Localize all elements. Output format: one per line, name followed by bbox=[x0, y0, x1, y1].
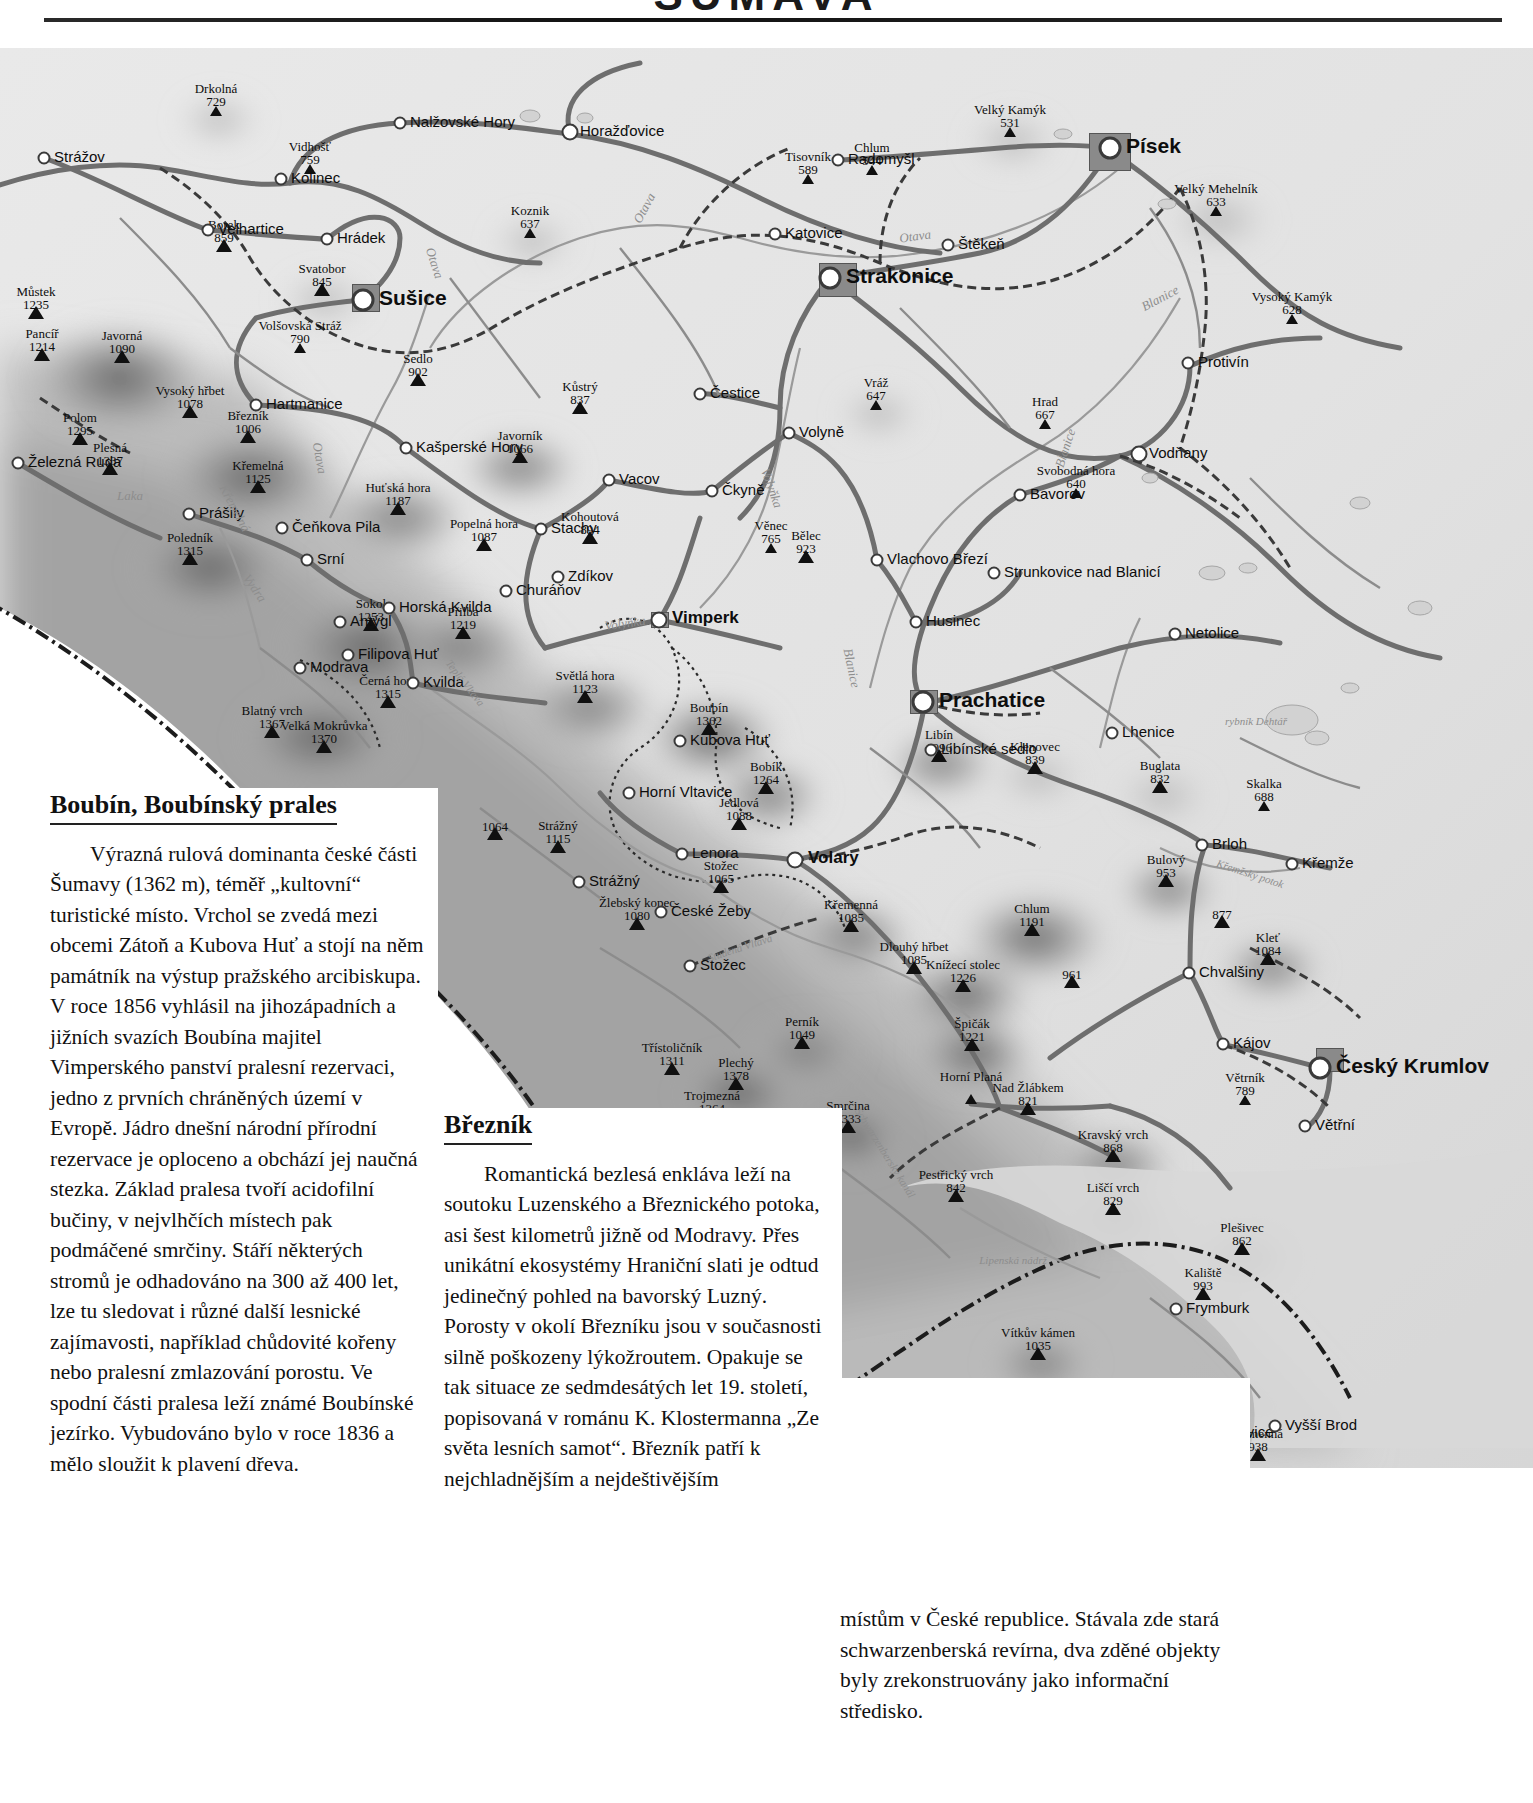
town-marker-icon[interactable] bbox=[912, 691, 935, 714]
town-marker-icon[interactable] bbox=[183, 508, 196, 521]
town-marker-icon[interactable] bbox=[1309, 1057, 1332, 1080]
town-marker-icon[interactable] bbox=[1286, 858, 1299, 871]
town-marker-icon[interactable] bbox=[651, 612, 668, 629]
town-marker-icon[interactable] bbox=[684, 960, 697, 973]
town-marker-icon[interactable] bbox=[407, 677, 420, 690]
town-marker-icon[interactable] bbox=[942, 239, 955, 252]
town-label: Kašperské Hory bbox=[416, 439, 523, 454]
town-marker-icon[interactable] bbox=[1183, 967, 1196, 980]
peak-elevation: 765 bbox=[754, 532, 787, 545]
town-marker-icon[interactable] bbox=[1196, 839, 1209, 852]
town-label: Vyšší Brod bbox=[1285, 1417, 1357, 1432]
town-marker-icon[interactable] bbox=[1131, 446, 1148, 463]
town-marker-icon[interactable] bbox=[623, 787, 636, 800]
peak-label: Bulový953 bbox=[1147, 853, 1185, 879]
peak-marker-icon bbox=[965, 1094, 977, 1104]
town-marker-icon[interactable] bbox=[694, 388, 707, 401]
town-marker-icon[interactable] bbox=[832, 154, 845, 167]
town-marker-icon[interactable] bbox=[38, 152, 51, 165]
town-marker-icon[interactable] bbox=[294, 662, 307, 675]
town-label: Hartmanice bbox=[266, 396, 343, 411]
town-marker-icon[interactable] bbox=[1299, 1120, 1312, 1133]
town-marker-icon[interactable] bbox=[250, 399, 263, 412]
town-marker-icon[interactable] bbox=[988, 567, 1001, 580]
town-marker-icon[interactable] bbox=[674, 735, 687, 748]
town-label: Hrádek bbox=[337, 230, 385, 245]
peak-elevation: 1064 bbox=[482, 820, 508, 833]
peak-label: Poledník1315 bbox=[167, 531, 213, 557]
town-marker-icon[interactable] bbox=[603, 474, 616, 487]
town-label: Vimperk bbox=[672, 609, 739, 626]
town-marker-icon[interactable] bbox=[1269, 1420, 1282, 1433]
town-marker-icon[interactable] bbox=[1217, 1038, 1230, 1051]
town-marker-icon[interactable] bbox=[769, 228, 782, 241]
town-marker-icon[interactable] bbox=[535, 523, 548, 536]
peak-elevation: 1084 bbox=[1255, 944, 1281, 957]
town-marker-icon[interactable] bbox=[676, 848, 689, 861]
peak-elevation: 759 bbox=[289, 153, 331, 166]
peak-label: Velká Mokrůvka1370 bbox=[280, 719, 367, 745]
town-marker-icon[interactable] bbox=[573, 876, 586, 889]
peak-elevation: 589 bbox=[785, 163, 831, 176]
peak-label: Křemenná1085 bbox=[824, 898, 878, 924]
town-marker-icon[interactable] bbox=[12, 457, 25, 470]
town-label: Štěkeň bbox=[958, 236, 1005, 251]
town-label: Bavorov bbox=[1030, 486, 1085, 501]
town-marker-icon[interactable] bbox=[202, 224, 215, 237]
town-marker-icon[interactable] bbox=[562, 124, 579, 141]
peak-label: Věnec765 bbox=[754, 519, 787, 545]
town-label: Netolice bbox=[1185, 625, 1239, 640]
peak-elevation: 953 bbox=[1147, 866, 1185, 879]
peak-label: Vráž647 bbox=[864, 376, 888, 402]
town-marker-icon[interactable] bbox=[400, 442, 413, 455]
town-label: Sušice bbox=[379, 287, 447, 308]
article-breznik-body-col3: místům v České republice. Stávala zde st… bbox=[840, 1604, 1240, 1726]
peak-elevation: 647 bbox=[864, 389, 888, 402]
peak-elevation: 832 bbox=[1140, 772, 1180, 785]
town-marker-icon[interactable] bbox=[500, 585, 513, 598]
town-label: Železná Ruda bbox=[28, 454, 121, 469]
town-marker-icon[interactable] bbox=[910, 616, 923, 629]
peak-label: Kaliště993 bbox=[1185, 1266, 1222, 1292]
town-marker-icon[interactable] bbox=[394, 117, 407, 130]
town-marker-icon[interactable] bbox=[655, 906, 668, 919]
town-marker-icon[interactable] bbox=[301, 554, 314, 567]
peak-label: Buglata832 bbox=[1140, 759, 1180, 785]
town-label: Filipova Huť bbox=[358, 646, 439, 661]
town-marker-icon[interactable] bbox=[1106, 727, 1119, 740]
peak-label: Vítkův kámen1035 bbox=[1001, 1326, 1075, 1352]
peak-elevation: 1370 bbox=[280, 732, 367, 745]
town-marker-icon[interactable] bbox=[1099, 137, 1122, 160]
peak-label: Kůstrý837 bbox=[562, 380, 597, 406]
town-marker-icon[interactable] bbox=[321, 233, 334, 246]
town-marker-icon[interactable] bbox=[1014, 489, 1027, 502]
town-marker-icon[interactable] bbox=[334, 616, 347, 629]
town-marker-icon[interactable] bbox=[871, 554, 884, 567]
peak-elevation: 1264 bbox=[750, 773, 782, 786]
town-label: Lenora bbox=[692, 845, 739, 860]
town-marker-icon[interactable] bbox=[819, 267, 842, 290]
town-marker-icon[interactable] bbox=[276, 522, 289, 535]
peak-label: Skalka688 bbox=[1246, 777, 1281, 803]
town-marker-icon[interactable] bbox=[352, 289, 375, 312]
town-marker-icon[interactable] bbox=[925, 744, 938, 757]
town-marker-icon[interactable] bbox=[1170, 1303, 1183, 1316]
town-marker-icon[interactable] bbox=[787, 852, 804, 869]
peak-elevation: 1378 bbox=[718, 1069, 753, 1082]
town-marker-icon[interactable] bbox=[783, 427, 796, 440]
peak-label: Můstek1235 bbox=[17, 285, 56, 311]
town-marker-icon[interactable] bbox=[1182, 357, 1195, 370]
town-marker-icon[interactable] bbox=[706, 485, 719, 498]
peak-label: Sedlo902 bbox=[403, 352, 433, 378]
town-label: Čkyně bbox=[722, 482, 765, 497]
town-label: Čeňkova Pila bbox=[292, 519, 380, 534]
town-marker-icon[interactable] bbox=[275, 173, 288, 186]
town-label: Kolinec bbox=[291, 170, 340, 185]
article-breznik-title: Březník bbox=[444, 1110, 532, 1145]
town-marker-icon[interactable] bbox=[1169, 628, 1182, 641]
peak-label: Pestřický vrch842 bbox=[919, 1168, 994, 1194]
peak-elevation: 862 bbox=[1220, 1234, 1263, 1247]
peak-label: Plešivec862 bbox=[1220, 1221, 1263, 1247]
peak-label: Pancíř1214 bbox=[25, 327, 58, 353]
article-breznik-col-a: Březník Romantická bezlesá enkláva leží … bbox=[444, 1110, 824, 1494]
